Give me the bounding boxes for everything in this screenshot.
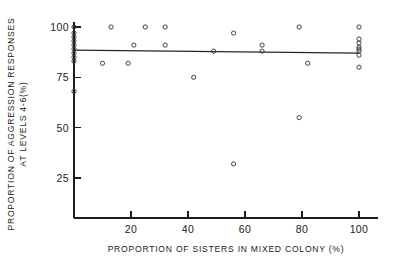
y-tick-label-50: 50: [57, 122, 69, 134]
y-axis-title-line2: AT LEVELS 4-6(%): [18, 81, 28, 166]
data-point: [297, 116, 301, 120]
x-tick-label-20: 20: [125, 223, 137, 235]
plot-canvas: 255075100 20406080100 PROPORTION OF SIST…: [0, 0, 403, 266]
y-axis-title-line1: PROPORTION OF AGGRESSION RESPONSES: [6, 17, 16, 230]
x-tick-label-40: 40: [182, 223, 194, 235]
x-tick-label-100: 100: [350, 223, 369, 235]
data-point-series: [72, 25, 361, 166]
data-point: [232, 31, 236, 35]
scatter-plot-figure: 255075100 20406080100 PROPORTION OF SIST…: [0, 0, 403, 266]
x-tick-label-60: 60: [239, 223, 251, 235]
y-axis-tick-labels: 255075100: [50, 21, 69, 184]
x-axis-title: PROPORTION OF SISTERS IN MIXED COLONY (%…: [108, 244, 345, 254]
y-tick-label-25: 25: [57, 172, 69, 184]
data-point: [143, 25, 147, 29]
x-axis-ticks: [131, 211, 359, 218]
data-point: [192, 75, 196, 79]
x-axis-tick-labels: 20406080100: [125, 223, 369, 235]
data-point: [109, 25, 113, 29]
y-tick-label-100: 100: [50, 21, 69, 33]
data-point: [306, 61, 310, 65]
data-point: [163, 25, 167, 29]
y-tick-label-75: 75: [57, 71, 69, 83]
data-point: [163, 43, 167, 47]
data-point: [126, 61, 130, 65]
data-point: [232, 162, 236, 166]
data-point: [297, 25, 301, 29]
data-point: [357, 25, 361, 29]
data-point: [100, 61, 104, 65]
data-point: [132, 43, 136, 47]
data-point: [260, 43, 264, 47]
regression-fit-line: [74, 50, 359, 53]
data-point: [357, 65, 361, 69]
x-tick-label-80: 80: [296, 223, 308, 235]
